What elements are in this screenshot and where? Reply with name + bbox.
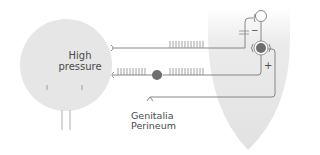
genitalia-perineum-label: Genitalia Perineum xyxy=(131,111,176,132)
label-high: High xyxy=(50,50,110,61)
ganglion-neuron xyxy=(152,70,162,80)
inhibitory-sign: − xyxy=(251,26,259,36)
excitatory-sign: + xyxy=(264,60,272,71)
urethra xyxy=(62,110,70,130)
bladder-label: High pressure xyxy=(50,50,110,72)
spinal-cord-shape xyxy=(208,8,290,150)
afferent-myelin-ticks xyxy=(170,41,203,48)
label-perineum: Perineum xyxy=(131,121,176,131)
label-pressure: pressure xyxy=(50,61,110,72)
